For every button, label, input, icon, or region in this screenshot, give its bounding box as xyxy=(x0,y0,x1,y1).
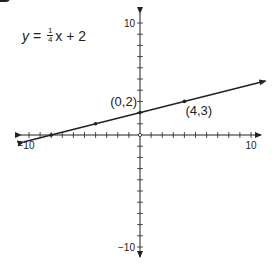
y-axis-max-label: 10 xyxy=(124,18,136,29)
x-axis-min-label: −10 xyxy=(18,140,35,151)
axis-ticks xyxy=(29,23,251,247)
origin-marker xyxy=(138,133,141,136)
y-axis-min-label: −10 xyxy=(118,242,135,253)
coordinate-plane: −101010−10(0,2)(4,3) xyxy=(0,0,275,269)
data-point xyxy=(49,133,53,137)
data-point xyxy=(138,111,142,115)
data-point xyxy=(94,122,98,126)
x-axis-max-label: 10 xyxy=(245,140,257,151)
point-label-4-3: (4,3) xyxy=(185,103,212,118)
point-label-0-2: (0,2) xyxy=(110,94,137,109)
